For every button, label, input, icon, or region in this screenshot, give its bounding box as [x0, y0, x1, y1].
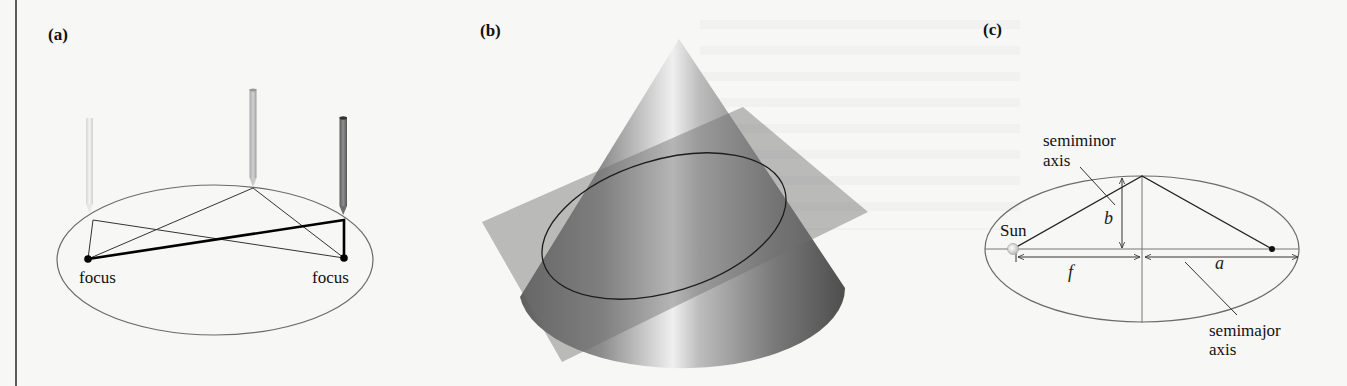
pencil-icon: [86, 118, 93, 213]
ellipse-a: [57, 185, 373, 335]
semiminor-leader-line: [1080, 167, 1115, 205]
pencil-icon: [250, 88, 257, 187]
sun-icon: [1008, 244, 1019, 255]
panel-c-label: (c): [983, 20, 1002, 39]
focus-point-left: [84, 255, 92, 263]
semiminor-label-line2: axis: [1043, 151, 1070, 170]
f-label: f: [1068, 262, 1076, 282]
pencil-icon: [340, 116, 348, 215]
semimajor-label-line1: semimajor: [1209, 321, 1281, 340]
focus-label-right: focus: [312, 268, 349, 287]
panel-a-label: (a): [48, 25, 68, 44]
semiminor-label-line1: semiminor: [1043, 131, 1116, 150]
sun-label: Sun: [1000, 221, 1027, 240]
focus-point-right: [340, 254, 348, 262]
panel-b: (b): [480, 21, 868, 368]
figure-canvas: (a) focus focus (b): [0, 0, 1347, 386]
b-label: b: [1104, 208, 1113, 228]
panel-c: (c) semiminor axis Sun b f a semimajor a…: [983, 20, 1299, 359]
semimajor-leader-line: [1185, 262, 1237, 315]
string-position-3: [88, 220, 344, 259]
panel-a: (a) focus focus: [48, 25, 373, 335]
panel-b-label: (b): [480, 21, 501, 40]
semimajor-label-line2: axis: [1209, 340, 1236, 359]
a-label: a: [1215, 253, 1224, 273]
focus-label-left: focus: [79, 268, 116, 287]
empty-focus-point: [1269, 246, 1275, 252]
